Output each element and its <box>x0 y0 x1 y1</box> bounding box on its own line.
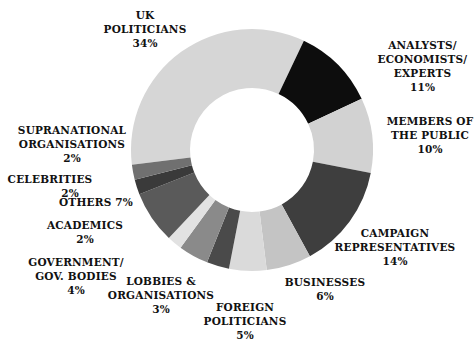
label-government: GOVERNMENT/ GOV. BODIES 4% <box>28 255 124 297</box>
label-campaign-representatives: CAMPAIGN REPRESENTATIVES 14% <box>330 226 460 268</box>
label-members-of-public: MEMBERS OF THE PUBLIC 10% <box>385 114 475 156</box>
label-uk-politicians: UK POLITICIANS 34% <box>100 8 190 50</box>
label-academics: ACADEMICS 2% <box>40 218 130 246</box>
label-analysts: ANALYSTS/ ECONOMISTS/ EXPERTS 11% <box>370 38 475 94</box>
label-supranational: SUPRANATIONAL ORGANISATIONS 2% <box>16 123 128 165</box>
label-businesses: BUSINESSES 6% <box>280 275 370 303</box>
label-celebrities: CELEBRITIES 2% <box>2 172 98 200</box>
